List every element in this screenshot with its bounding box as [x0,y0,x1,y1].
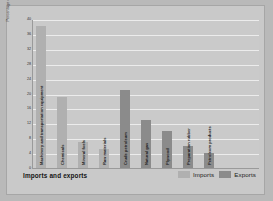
y-axis-tick-label: 40 [20,18,31,22]
plot-area: Machinery and transportation equipmentCh… [32,20,259,169]
y-axis-tick-label: 28 [20,63,31,67]
chart-figure: Percentage of total 0481216202428323640 … [6,5,265,195]
y-axis-tick-label: 32 [20,48,31,52]
bar [183,146,193,168]
bar [36,26,46,168]
y-axis-tick-label: 4 [20,152,31,156]
legend-swatch-imports [178,171,190,178]
legend-label-exports: Exports [234,171,256,178]
y-axis-tick-label: 8 [20,137,31,141]
y-axis-tick-label: 36 [20,33,31,37]
bar-slot: Preparation rubber [183,20,200,168]
legend-label-imports: Imports [193,171,214,178]
bar [162,131,172,168]
bar [204,153,214,168]
y-axis-tick-label: 12 [20,123,31,127]
bar-label-wrap: Petroleum products [204,19,214,168]
bar [141,120,151,168]
bar-slot: Plywood [162,20,179,168]
chart-footer: Imports and exports Imports Exports [7,168,264,188]
chart-title: Imports and exports [23,172,87,179]
bar-slot: Raw materials [99,20,116,168]
bar [57,97,67,168]
legend-item-exports: Exports [219,171,256,178]
bar-slot: Machinery and transportation equipment [36,20,53,168]
bar [99,149,109,168]
bar-slot: Natural gas [141,20,158,168]
legend-swatch-exports [219,171,231,178]
y-axis-tick-label: 16 [20,108,31,112]
bar [78,142,88,168]
y-axis-ticks: 0481216202428323640 [20,20,31,169]
bar-slot: Crude petroleum [120,20,137,168]
bar [120,90,130,168]
legend-item-imports: Imports [178,171,214,178]
bar-slot: Mineral fuels [78,20,95,168]
legend: Imports Exports [178,171,256,178]
bar-label-wrap: Raw materials [99,19,109,168]
y-axis-tick-label: 24 [20,78,31,82]
bar-slot: Petroleum products [204,20,221,168]
y-axis-title: Percentage of total [6,0,10,48]
bar-group: Machinery and transportation equipmentCh… [33,20,259,168]
y-axis-tick-label: 20 [20,93,31,97]
bar-slot: Chemicals [57,20,74,168]
